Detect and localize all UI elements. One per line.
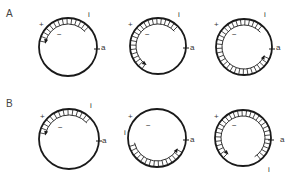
inner-arc-b3	[221, 116, 265, 157]
hatch-line-a3	[217, 52, 223, 53]
hatch-line-a2	[135, 59, 140, 63]
minus-label-a3: −	[232, 30, 237, 39]
hatch-line-a3	[236, 20, 238, 26]
hatch-line-a1	[46, 28, 51, 32]
hatch-line-b2	[129, 145, 135, 147]
hatch-line-a3	[230, 66, 233, 71]
hatch-line-b3	[222, 120, 227, 124]
hatch-line-b2	[134, 152, 139, 156]
hatch-line-b2	[169, 158, 172, 163]
hatch-line-a2	[134, 32, 139, 35]
hatch-line-b3	[260, 152, 265, 156]
hatch-line-a3	[234, 68, 236, 74]
hatch-line-b3	[261, 122, 266, 125]
hatch-line-b1	[40, 133, 46, 134]
hatch-line-a1	[43, 32, 48, 35]
hatch-line-b3	[249, 111, 251, 117]
plus-label-b1: +	[40, 112, 45, 121]
hatch-line-b3	[264, 130, 270, 132]
hatch-line-a3	[260, 62, 264, 66]
hatch-line-a2	[161, 18, 162, 24]
hatch-line-a2	[140, 25, 144, 30]
hatch-line-a1	[53, 22, 56, 27]
hatch-line-a3	[218, 55, 224, 57]
i-label-a3: i	[264, 10, 266, 19]
hatch-line-a2	[142, 64, 145, 69]
hatch-line-b1	[58, 111, 60, 117]
hatch-line-a3	[254, 67, 257, 72]
hatch-line-b2	[137, 154, 141, 158]
hatch-line-b3	[223, 154, 227, 158]
i-label-b3: i	[268, 165, 270, 174]
plus-label-a3: +	[214, 20, 219, 29]
plus-label-b2: +	[128, 112, 133, 121]
hatch-line-a2	[132, 36, 138, 38]
hatch-line-a1	[41, 36, 47, 38]
hatch-line-a1	[82, 24, 86, 29]
row-label-a: A	[6, 8, 13, 19]
hatch-line-b2	[145, 159, 148, 164]
hatch-line-a2	[168, 21, 171, 26]
hatch-line-b2	[140, 157, 143, 162]
hatch-line-b2	[166, 159, 168, 165]
hatch-line-b3	[233, 112, 235, 118]
plus-label-b3: +	[214, 112, 219, 121]
hatch-line-b1	[46, 120, 51, 124]
hatch-line-b3	[253, 113, 256, 118]
hatch-line-a2	[131, 40, 137, 41]
hatch-line-b1	[63, 110, 64, 116]
hatch-line-a3	[262, 59, 267, 62]
a-label-a2: a	[190, 43, 195, 52]
circle-diagrams: +−ia+−ia+−ia+−ia+−ia+−ia	[0, 0, 288, 178]
hatch-line-a1	[71, 18, 72, 24]
hatch-line-b1	[43, 124, 48, 127]
row-label-b: B	[6, 98, 13, 109]
hatch-line-b3	[263, 146, 269, 148]
hatch-line-a3	[232, 22, 235, 27]
minus-label-a1: −	[57, 30, 62, 39]
i-label-a2: i	[178, 10, 180, 19]
hatch-line-b1	[41, 128, 47, 130]
hatch-line-a2	[131, 52, 137, 54]
hatch-line-a3	[219, 35, 224, 38]
hatch-line-a2	[133, 56, 138, 59]
hatch-line-a2	[137, 28, 142, 32]
hatch-line-a1	[62, 19, 63, 25]
arrowhead-icon-b1	[44, 131, 48, 136]
hatch-line-a3	[240, 19, 241, 25]
hatch-line-b3	[218, 148, 223, 151]
hatch-line-b3	[229, 114, 232, 119]
hatch-line-a3	[228, 24, 232, 29]
hatch-line-b2	[172, 155, 176, 160]
hatch-line-b3	[219, 124, 224, 127]
hatch-line-a1	[84, 27, 88, 31]
hatch-line-b2	[177, 150, 182, 153]
hatch-line-b1	[50, 116, 54, 121]
hatch-line-a1	[40, 41, 46, 42]
hatch-line-b1	[54, 113, 57, 118]
hatch-line-b1	[72, 109, 73, 115]
inner-arc-a2	[136, 24, 174, 64]
hatch-line-b3	[246, 110, 247, 116]
arrowhead-icon-a1	[44, 39, 48, 44]
hatch-line-b1	[86, 118, 90, 122]
plus-label-a2: +	[128, 20, 133, 29]
diagram-canvas: A B +−ia+−ia+−ia+−ia+−ia+−ia	[0, 0, 288, 178]
hatch-line-a3	[255, 23, 258, 28]
hatch-line-b2	[162, 160, 163, 166]
hatch-line-a2	[148, 20, 150, 26]
hatch-line-b3	[216, 144, 222, 146]
hatch-line-b1	[83, 115, 87, 120]
i-label-b2: i	[124, 128, 126, 137]
hatch-line-a1	[49, 25, 53, 30]
hatch-line-a2	[144, 22, 147, 27]
hatch-line-b2	[175, 153, 180, 157]
hatch-line-a2	[174, 26, 178, 30]
i-label-a1: i	[88, 10, 90, 19]
hatch-line-a2	[152, 19, 153, 25]
hatch-line-a3	[217, 39, 223, 41]
hatch-line-a3	[223, 61, 228, 65]
hatch-line-b3	[215, 141, 221, 142]
minus-label-b1: −	[58, 123, 63, 132]
hatch-line-a3	[248, 20, 249, 26]
